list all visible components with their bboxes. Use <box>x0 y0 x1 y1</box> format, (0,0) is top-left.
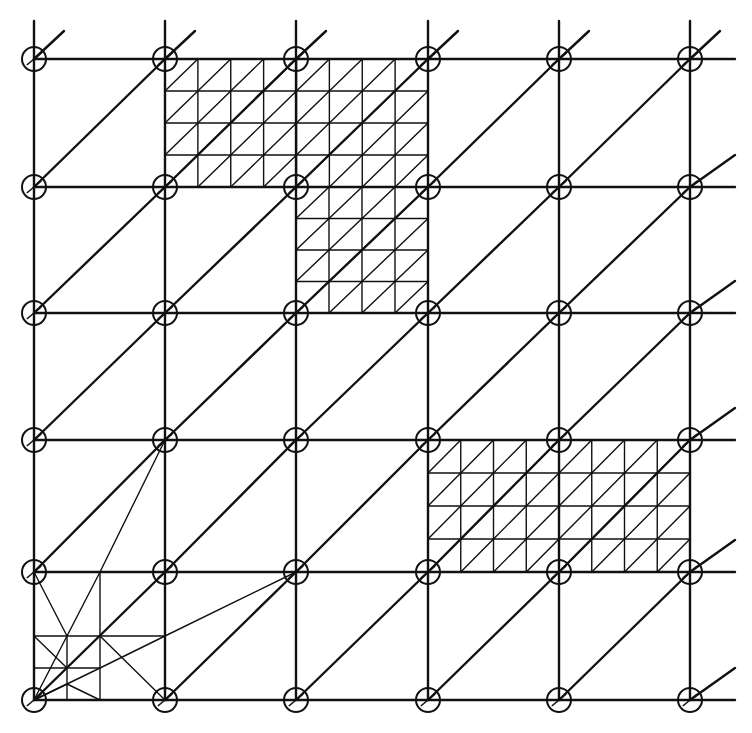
top-patch-diagonal <box>198 123 231 155</box>
cell-diagonal <box>428 59 559 187</box>
right-patch-diagonal <box>428 506 461 539</box>
cell-diagonal <box>165 313 296 440</box>
right-patch-diagonal <box>461 539 494 572</box>
top-patch-diagonal <box>198 59 231 91</box>
cell-diagonal <box>559 572 690 700</box>
corner-fan-line <box>34 684 67 700</box>
right-patch-diagonal <box>625 440 658 473</box>
top-patch-diagonal <box>297 91 330 123</box>
top-patch-diagonal <box>297 59 330 91</box>
top-patch-diagonal <box>198 91 231 123</box>
right-patch-diagonal <box>559 473 592 506</box>
right-patch-diagonal <box>494 539 527 572</box>
right-patch-diagonal <box>494 440 527 473</box>
cell-diagonal <box>428 187 559 313</box>
top-patch-diagonal <box>329 59 362 91</box>
right-patch-diagonal <box>461 473 494 506</box>
top-patch-diagonal <box>362 59 395 91</box>
corner-fan-line <box>67 572 100 636</box>
top-patch-diagonal <box>264 123 297 155</box>
right-patch-diagonal <box>461 506 494 539</box>
upper-middle-patch-diagonal <box>329 250 362 282</box>
top-patch-diagonal <box>362 91 395 123</box>
right-patch-diagonal <box>625 539 658 572</box>
top-patch-diagonal <box>362 155 395 187</box>
right-patch-diagonal <box>494 473 527 506</box>
top-patch-diagonal <box>329 155 362 187</box>
cell-diagonal <box>34 187 165 313</box>
upper-middle-patch-diagonal <box>296 187 329 219</box>
corner-fan-line <box>34 636 67 668</box>
cell-diagonal <box>296 572 428 700</box>
top-patch-diagonal <box>297 123 330 155</box>
cell-diagonal <box>428 572 559 700</box>
top-patch-diagonal <box>264 59 297 91</box>
right-patch-diagonal <box>592 506 625 539</box>
corner-fan-line <box>34 572 67 636</box>
top-patch-diagonal <box>231 155 264 187</box>
top-patch-diagonal <box>329 91 362 123</box>
right-patch-diagonal <box>526 539 559 572</box>
cell-diagonal <box>165 440 296 572</box>
upper-middle-patch-diagonal <box>362 219 395 251</box>
cell-diagonal <box>34 313 165 440</box>
top-patch-diagonal <box>395 155 428 187</box>
upper-middle-patch-diagonal <box>296 219 329 251</box>
upper-middle-patch-diagonal <box>362 187 395 219</box>
top-patch-diagonal <box>231 123 264 155</box>
cell-diagonal <box>165 572 296 700</box>
finite-element-mesh-diagram <box>0 0 752 733</box>
upper-middle-patch-diagonal <box>395 282 428 314</box>
top-patch-diagonal <box>362 123 395 155</box>
cell-diagonal <box>296 313 428 440</box>
corner-fan-line <box>165 572 296 636</box>
top-patch-diagonal <box>165 91 198 123</box>
right-patch-diagonal <box>592 473 625 506</box>
upper-middle-patch-diagonal <box>362 282 395 314</box>
right-patch-diagonal <box>657 506 690 539</box>
upper-middle-patch-diagonal <box>329 187 362 219</box>
top-patch-diagonal <box>395 91 428 123</box>
cell-diagonal <box>559 187 690 313</box>
corner-fan-line <box>100 636 165 668</box>
right-patch-diagonal <box>559 506 592 539</box>
right-patch-diagonal <box>625 473 658 506</box>
top-patch-diagonal <box>329 123 362 155</box>
upper-middle-patch-diagonal <box>395 250 428 282</box>
right-patch-diagonal <box>592 539 625 572</box>
cell-diagonal <box>165 187 296 313</box>
right-patch-diagonal <box>428 473 461 506</box>
top-patch-diagonal <box>395 123 428 155</box>
right-patch-diagonal <box>657 539 690 572</box>
cell-diagonal <box>559 59 690 187</box>
cell-diagonal <box>428 313 559 440</box>
cell-diagonal <box>34 59 165 187</box>
corner-fan-line <box>100 440 165 572</box>
right-patch-diagonal <box>559 440 592 473</box>
cell-diagonal <box>34 440 165 572</box>
top-patch-diagonal <box>165 59 198 91</box>
upper-middle-patch-diagonal <box>395 219 428 251</box>
top-patch-diagonal <box>198 155 231 187</box>
right-patch-diagonal <box>526 506 559 539</box>
top-patch-diagonal <box>231 91 264 123</box>
right-patch-diagonal <box>494 506 527 539</box>
cell-diagonal <box>559 313 690 440</box>
upper-middle-patch-diagonal <box>329 282 362 314</box>
top-patch-diagonal <box>165 123 198 155</box>
cell-diagonal <box>296 440 428 572</box>
upper-middle-patch-diagonal <box>296 250 329 282</box>
top-patch-diagonal <box>231 59 264 91</box>
top-patch-diagonal <box>264 91 297 123</box>
upper-middle-patch-diagonal <box>329 219 362 251</box>
corner-fan-line <box>100 636 165 700</box>
right-patch-diagonal <box>428 440 461 473</box>
upper-middle-patch-diagonal <box>362 250 395 282</box>
right-patch-diagonal <box>592 440 625 473</box>
right-patch-diagonal <box>461 440 494 473</box>
right-patch-diagonal <box>526 473 559 506</box>
top-patch-diagonal <box>264 155 297 187</box>
right-patch-diagonal <box>657 473 690 506</box>
right-patch-diagonal <box>625 506 658 539</box>
corner-fan-line <box>67 684 100 700</box>
